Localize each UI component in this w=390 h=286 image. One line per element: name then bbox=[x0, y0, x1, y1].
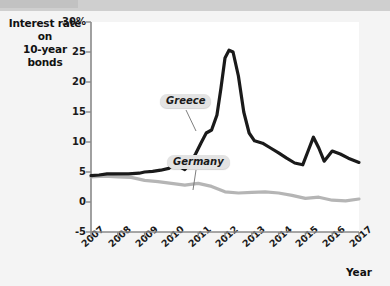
callout-leader-germany bbox=[193, 170, 196, 190]
series-line-germany bbox=[91, 176, 359, 201]
series-callout-greece: Greece bbox=[160, 94, 211, 108]
series-callout-germany: Germany bbox=[167, 155, 230, 169]
x-axis-title: Year bbox=[346, 266, 372, 278]
figure-container: Interest rate on 10-year bonds -50510152… bbox=[0, 0, 390, 286]
chart-canvas bbox=[0, 0, 390, 286]
callout-leader-greece bbox=[186, 110, 196, 131]
